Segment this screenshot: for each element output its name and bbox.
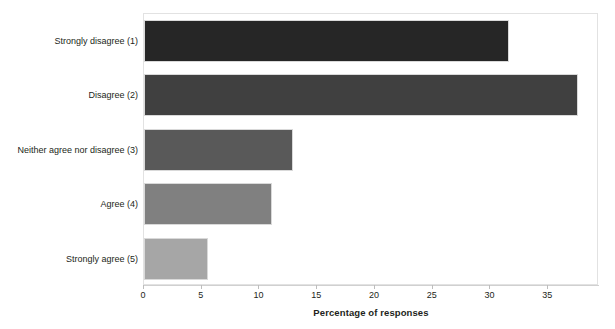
- x-axis-tick-label: 10: [238, 290, 278, 300]
- x-axis-tick-label: 35: [527, 290, 567, 300]
- x-axis-tick: [374, 285, 375, 289]
- bar-neither-agree-nor-disagree: [144, 129, 293, 171]
- chart-category-row: Strongly disagree (1): [144, 14, 597, 68]
- bar-strongly-disagree: [144, 20, 509, 62]
- x-axis-tick-label: 25: [412, 290, 452, 300]
- x-axis-tick: [143, 285, 144, 289]
- x-axis-tick: [489, 285, 490, 289]
- x-axis-tick: [201, 285, 202, 289]
- bar-disagree: [144, 74, 578, 116]
- x-axis-line: [143, 285, 599, 286]
- x-axis-tick-label: 0: [123, 290, 163, 300]
- y-axis-tick-label: Agree (4): [0, 199, 138, 209]
- x-axis-tick: [547, 285, 548, 289]
- x-axis-tick: [258, 285, 259, 289]
- y-axis-tick-label: Neither agree nor disagree (3): [0, 145, 138, 155]
- y-axis-tick-label: Disagree (2): [0, 90, 138, 100]
- bar-strongly-agree: [144, 238, 208, 280]
- y-axis-tick-label: Strongly agree (5): [0, 254, 138, 264]
- x-axis-tick-label: 5: [181, 290, 221, 300]
- chart-category-row: Strongly agree (5): [144, 232, 597, 286]
- x-axis-tick: [432, 285, 433, 289]
- x-axis-tick-label: 30: [469, 290, 509, 300]
- chart-title: [0, 0, 615, 1]
- x-axis-tick-label: 15: [296, 290, 336, 300]
- chart-category-row: Disagree (2): [144, 68, 597, 122]
- x-axis-tick: [316, 285, 317, 289]
- bar-chart-figure: Strongly disagree (1) Disagree (2) Neith…: [0, 0, 615, 329]
- x-axis-tick-label: 20: [354, 290, 394, 300]
- chart-category-row: Agree (4): [144, 177, 597, 231]
- x-axis-title: Percentage of responses: [143, 307, 599, 318]
- chart-category-row: Neither agree nor disagree (3): [144, 123, 597, 177]
- plot-area: Strongly disagree (1) Disagree (2) Neith…: [143, 13, 598, 285]
- y-axis-tick-label: Strongly disagree (1): [0, 36, 138, 46]
- bar-agree: [144, 183, 272, 225]
